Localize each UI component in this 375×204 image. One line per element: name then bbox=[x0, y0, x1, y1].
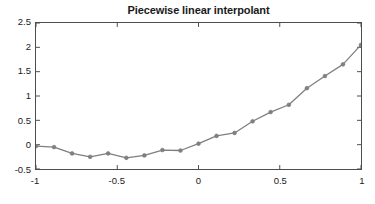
data-point bbox=[323, 74, 327, 78]
data-point bbox=[269, 110, 273, 114]
x-tick-label: 0 bbox=[196, 176, 201, 186]
data-point bbox=[233, 131, 237, 135]
data-point bbox=[70, 152, 74, 156]
x-tick-label: 1 bbox=[359, 176, 364, 186]
data-point bbox=[106, 152, 110, 156]
data-line bbox=[36, 45, 361, 158]
axis-ticks bbox=[36, 23, 361, 169]
data-point bbox=[197, 142, 201, 146]
data-point bbox=[161, 148, 165, 152]
data-point bbox=[179, 149, 183, 153]
x-tick-label: -0.5 bbox=[109, 176, 125, 186]
data-point bbox=[251, 119, 255, 123]
data-point bbox=[341, 62, 345, 66]
data-point bbox=[52, 145, 56, 149]
data-point bbox=[215, 134, 219, 138]
data-point bbox=[359, 43, 361, 47]
data-point bbox=[305, 86, 309, 90]
plot-area bbox=[35, 22, 362, 170]
chart-figure: Piecewise linear interpolant -0.500.511.… bbox=[0, 0, 375, 204]
data-point bbox=[88, 155, 92, 159]
plot-svg bbox=[36, 23, 361, 169]
data-point bbox=[36, 144, 38, 148]
data-point bbox=[124, 156, 128, 160]
data-markers bbox=[36, 43, 361, 160]
data-point bbox=[142, 154, 146, 158]
data-point bbox=[287, 103, 291, 107]
x-tick-label: -1 bbox=[31, 176, 39, 186]
x-tick-label: 0.5 bbox=[274, 176, 287, 186]
